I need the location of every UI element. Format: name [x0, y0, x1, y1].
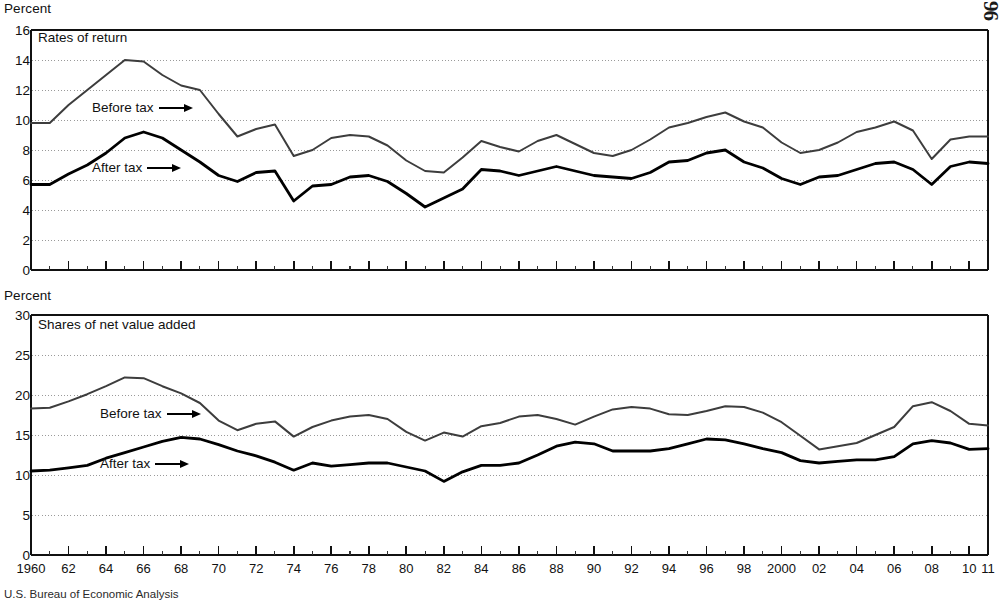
- x-tick-label: 74: [286, 561, 300, 576]
- panel-caption-top: Rates of return: [38, 30, 127, 45]
- series-label-after-tax-top: After tax: [92, 160, 181, 175]
- arrow-right-icon: [167, 410, 201, 419]
- x-axis-tick-labels: 1960626466687072747678808284868890929496…: [0, 561, 1006, 581]
- y-tick-label: 20: [15, 388, 30, 403]
- panel-caption-bottom: Shares of net value added: [38, 317, 196, 332]
- y-axis-ticks-top: 0246810121416: [0, 18, 30, 276]
- x-tick-label: 10: [962, 561, 976, 576]
- y-tick-label: 8: [22, 143, 30, 158]
- y-tick-label: 10: [15, 468, 30, 483]
- x-tick-label: 70: [211, 561, 225, 576]
- chart-page: 96 Percent 0246810121416 Rates of return…: [0, 0, 1006, 609]
- series-label-text: After tax: [100, 456, 150, 471]
- y-axis-title-top: Percent: [4, 1, 51, 16]
- arrow-right-icon: [155, 460, 189, 469]
- x-tick-label: 62: [61, 561, 75, 576]
- y-tick-label: 6: [22, 173, 30, 188]
- x-tick-label: 78: [362, 561, 376, 576]
- x-tick-label: 2000: [767, 561, 796, 576]
- y-tick-label: 10: [15, 113, 30, 128]
- y-tick-label: 12: [15, 83, 30, 98]
- y-tick-label: 15: [15, 428, 30, 443]
- x-tick-label: 94: [662, 561, 676, 576]
- y-tick-label: 25: [15, 348, 30, 363]
- arrow-right-icon: [159, 104, 193, 113]
- x-tick-label: 72: [249, 561, 263, 576]
- x-tick-label: 86: [512, 561, 526, 576]
- series-label-text: Before tax: [92, 100, 154, 115]
- series-label-before-tax-bottom: Before tax: [100, 406, 201, 421]
- y-tick-label: 0: [22, 263, 30, 278]
- y-tick-label: 14: [15, 53, 30, 68]
- x-tick-label: 66: [136, 561, 150, 576]
- x-tick-label: 1960: [17, 561, 46, 576]
- x-tick-label: 90: [587, 561, 601, 576]
- x-tick-label: 80: [399, 561, 413, 576]
- y-tick-label: 4: [22, 203, 30, 218]
- series-label-after-tax-bottom: After tax: [100, 456, 189, 471]
- x-tick-label: 98: [737, 561, 751, 576]
- chart-panel-rates-of-return: 0246810121416: [0, 18, 1006, 276]
- chart-svg-top: [0, 18, 1006, 276]
- y-axis-ticks-bottom: 051015202530: [0, 305, 30, 560]
- series-label-text: After tax: [92, 160, 142, 175]
- chart-panel-shares-of-net-value-added: 051015202530: [0, 305, 1006, 560]
- y-tick-label: 5: [22, 508, 30, 523]
- y-tick-label: 2: [22, 233, 30, 248]
- x-tick-label: 96: [699, 561, 713, 576]
- chart-svg-bottom: [0, 305, 1006, 560]
- x-tick-label: 08: [924, 561, 938, 576]
- x-tick-label: 84: [474, 561, 488, 576]
- x-tick-label: 64: [99, 561, 113, 576]
- x-tick-label: 02: [812, 561, 826, 576]
- y-tick-label: 16: [15, 23, 30, 38]
- y-tick-label: 30: [15, 308, 30, 323]
- source-note: U.S. Bureau of Economic Analysis: [4, 588, 179, 600]
- y-axis-title-bottom: Percent: [4, 288, 51, 303]
- series-label-before-tax-top: Before tax: [92, 100, 193, 115]
- x-tick-label: 04: [849, 561, 863, 576]
- x-tick-label: 11: [981, 561, 995, 576]
- x-tick-label: 06: [887, 561, 901, 576]
- x-tick-label: 92: [624, 561, 638, 576]
- series-label-text: Before tax: [100, 406, 162, 421]
- arrow-right-icon: [147, 164, 181, 173]
- x-tick-label: 82: [437, 561, 451, 576]
- x-tick-label: 68: [174, 561, 188, 576]
- x-tick-label: 76: [324, 561, 338, 576]
- x-tick-label: 88: [549, 561, 563, 576]
